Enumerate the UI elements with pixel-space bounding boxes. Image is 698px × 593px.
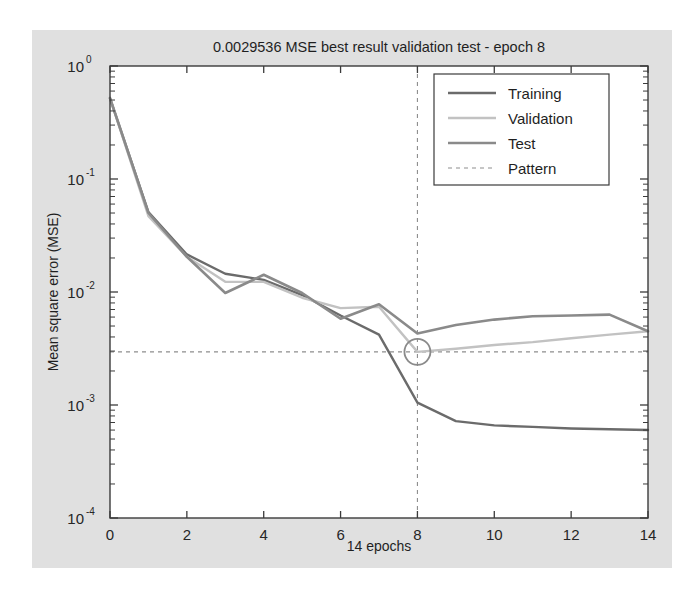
x-axis-label: 14 epochs [347, 538, 412, 554]
x-tick-6: 6 [336, 526, 344, 543]
x-tick-0: 0 [106, 526, 114, 543]
svg-text:0: 0 [86, 54, 92, 65]
legend-label-validation: Validation [508, 110, 573, 127]
svg-text:10: 10 [67, 397, 84, 414]
svg-text:-1: -1 [86, 167, 95, 178]
svg-text:10: 10 [67, 171, 84, 188]
x-tick-10: 10 [486, 526, 503, 543]
y-tick-1e-1: 10-1 [67, 167, 95, 188]
svg-text:10: 10 [67, 510, 84, 527]
x-tick-8: 8 [413, 526, 421, 543]
svg-text:-4: -4 [86, 506, 95, 517]
svg-text:-3: -3 [86, 393, 95, 404]
y-tick-1e0: 100 [67, 54, 92, 75]
svg-text:10: 10 [67, 58, 84, 75]
legend-label-pattern: Pattern [508, 160, 556, 177]
svg-text:10: 10 [67, 284, 84, 301]
x-tick-4: 4 [260, 526, 268, 543]
x-tick-2: 2 [183, 526, 191, 543]
legend-label-test: Test [508, 135, 536, 152]
y-tick-1e-4: 10-4 [67, 506, 95, 527]
page-title: 0.0029536 MSE best result validation tes… [213, 39, 545, 55]
y-axis-label: Mean square error (MSE) [45, 213, 61, 372]
y-tick-1e-2: 10-2 [67, 280, 95, 301]
performance-plot: 0.0029536 MSE best result validation tes… [32, 30, 672, 568]
legend-label-training: Training [508, 85, 562, 102]
figure-panel: 0.0029536 MSE best result validation tes… [32, 30, 672, 568]
y-tick-1e-3: 10-3 [67, 393, 95, 414]
x-tick-14: 14 [640, 526, 657, 543]
y-tick-labels: 10010-110-210-310-4 [67, 54, 95, 527]
svg-text:-2: -2 [86, 280, 95, 291]
x-tick-12: 12 [563, 526, 580, 543]
legend[interactable]: TrainingValidationTestPattern [434, 74, 609, 185]
